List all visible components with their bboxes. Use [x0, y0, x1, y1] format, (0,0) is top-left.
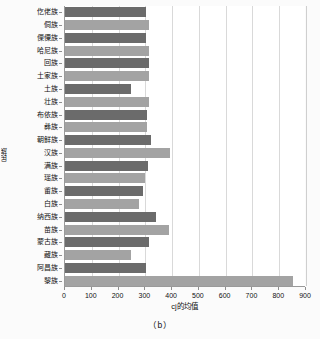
bar: [65, 276, 293, 286]
y-axis-tick-mark: [59, 230, 62, 231]
x-axis-tick-mark: [251, 287, 252, 290]
bar-fill: [65, 276, 293, 286]
figure-caption: （b）: [0, 318, 320, 330]
bar-fill: [65, 250, 131, 260]
y-axis-tick-label: 苗族: [44, 225, 58, 235]
bar-fill: [65, 7, 146, 17]
y-axis-tick-mark: [59, 281, 62, 282]
bar: [65, 250, 131, 260]
y-axis-tick-label: 哈尼族: [37, 46, 58, 56]
bar: [65, 148, 170, 158]
y-axis-tick-label: 傈僳族: [37, 33, 58, 43]
bar-fill: [65, 263, 146, 273]
bar-fill: [65, 58, 149, 68]
bar: [65, 46, 149, 56]
y-axis-tick-label: 满族: [44, 161, 58, 171]
y-axis-tick-label: 土家族: [37, 71, 58, 81]
y-axis-tick-mark: [59, 166, 62, 167]
bar: [65, 33, 146, 43]
chart-figure: 民族 仡佬族侗族傈僳族哈尼族回族土家族土族壮族布依族彝族朝鲜族汉族满族瑶族畲族白…: [0, 0, 320, 339]
y-axis-tick-mark: [59, 12, 62, 13]
y-axis-tick-mark: [59, 153, 62, 154]
bar-fill: [65, 46, 149, 56]
bar-fill: [65, 110, 147, 120]
y-axis-tick-mark: [59, 76, 62, 77]
y-axis-tick-mark: [59, 242, 62, 243]
x-axis-tick-mark: [144, 287, 145, 290]
y-axis-tick-mark: [59, 51, 62, 52]
bar-fill: [65, 148, 170, 158]
x-axis-tick-label: 400: [165, 291, 177, 300]
x-axis-tick-mark: [198, 287, 199, 290]
y-axis-tick-label: 瑶族: [44, 173, 58, 183]
bar-fill: [65, 20, 149, 30]
bar: [65, 97, 149, 107]
y-axis-tick-label: 蒙古族: [37, 237, 58, 247]
bar: [65, 186, 143, 196]
y-axis-tick-mark: [59, 268, 62, 269]
bar-fill: [65, 33, 146, 43]
bar-fill: [65, 237, 149, 247]
y-axis-tick-mark: [59, 115, 62, 116]
y-axis-tick-mark: [59, 63, 62, 64]
bar: [65, 263, 146, 273]
y-axis-tick-label: 土族: [44, 84, 58, 94]
bar: [65, 225, 169, 235]
bar: [65, 161, 148, 171]
y-axis-tick-label: 侗族: [44, 20, 58, 30]
y-axis-tick-label: 回族: [44, 58, 58, 68]
y-axis-tick-mark: [59, 255, 62, 256]
y-axis-tick-label: 白族: [44, 199, 58, 209]
bar: [65, 212, 156, 222]
bar-fill: [65, 161, 148, 171]
y-axis-tick-mark: [59, 38, 62, 39]
x-axis-tick-label: 600: [219, 291, 231, 300]
gridline-900: [306, 6, 307, 286]
bar-fill: [65, 84, 131, 94]
y-axis-tick-mark: [59, 102, 62, 103]
x-axis-ticks: 0100200300400500600700800900: [64, 287, 305, 301]
y-axis-tick-label: 纳西族: [37, 212, 58, 222]
y-axis-tick-mark: [59, 204, 62, 205]
y-axis-tick-label: 阿昌族: [37, 263, 58, 273]
y-axis-tick-label: 朝鲜族: [37, 135, 58, 145]
y-axis-tick-mark: [59, 191, 62, 192]
bar-fill: [65, 212, 156, 222]
y-axis-tick-mark: [59, 178, 62, 179]
bar-fill: [65, 135, 151, 145]
bar: [65, 110, 147, 120]
bar-fill: [65, 173, 145, 183]
x-axis-tick-label: 800: [272, 291, 284, 300]
bar: [65, 7, 146, 17]
y-axis-tick-label: 彝族: [44, 122, 58, 132]
bar-series: [65, 6, 305, 286]
x-axis-tick-mark: [225, 287, 226, 290]
x-axis-tick-label: 0: [62, 291, 66, 300]
x-axis-title: cj的均值: [64, 300, 305, 311]
y-axis-tick-label: 藏族: [44, 250, 58, 260]
bar: [65, 20, 149, 30]
y-axis-tick-mark: [59, 127, 62, 128]
x-axis-tick-label: 500: [192, 291, 204, 300]
bar: [65, 58, 149, 68]
bar: [65, 84, 131, 94]
bar: [65, 173, 145, 183]
bar: [65, 122, 147, 132]
x-axis-tick-label: 900: [299, 291, 311, 300]
y-axis-tick-label: 布依族: [37, 110, 58, 120]
x-axis-tick-mark: [91, 287, 92, 290]
y-axis-tick-label: 汉族: [44, 148, 58, 158]
x-axis-tick-label: 300: [138, 291, 150, 300]
bar: [65, 135, 151, 145]
x-axis-tick-mark: [171, 287, 172, 290]
y-axis-tick-mark: [59, 140, 62, 141]
x-axis-tick-label: 700: [246, 291, 258, 300]
y-axis-tick-mark: [59, 25, 62, 26]
x-axis-tick-mark: [64, 287, 65, 290]
x-axis-tick-mark: [118, 287, 119, 290]
y-axis-tick-label: 黎族: [44, 276, 58, 286]
bar-fill: [65, 186, 143, 196]
bar: [65, 71, 149, 81]
y-axis-category-labels: 仡佬族侗族傈僳族哈尼族回族土家族土族壮族布依族彝族朝鲜族汉族满族瑶族畲族白族纳西…: [0, 6, 62, 287]
x-axis-tick-mark: [305, 287, 306, 290]
